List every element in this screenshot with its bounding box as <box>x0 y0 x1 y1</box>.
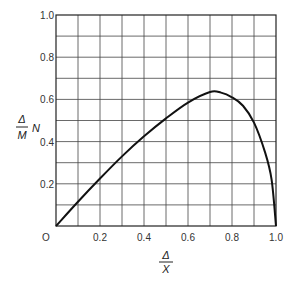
y-tick-label: 0.8 <box>40 52 54 63</box>
y-axis-label-denominator: M <box>17 129 27 141</box>
x-tick-labels: O0.20.40.60.81.0 <box>42 232 283 243</box>
x-tick-label: 0.8 <box>225 232 239 243</box>
y-axis-label-numerator: Δ <box>17 113 25 125</box>
y-tick-label: 0.2 <box>40 179 54 190</box>
x-axis-label: Δ X <box>159 249 173 275</box>
x-tick-label: 0.2 <box>93 232 107 243</box>
x-tick-label: 0.4 <box>137 232 151 243</box>
y-tick-label: 0.4 <box>40 137 54 148</box>
y-axis-label-suffix: N <box>32 122 40 134</box>
x-axis-label-denominator: X <box>161 263 170 275</box>
x-tick-label: 0.6 <box>181 232 195 243</box>
y-tick-label: 0.6 <box>40 94 54 105</box>
y-axis-label: Δ M N <box>16 113 40 141</box>
y-tick-label: 1.0 <box>40 10 54 21</box>
y-tick-labels: 0.20.40.60.81.0 <box>40 10 54 190</box>
x-tick-label: O <box>42 232 50 243</box>
x-tick-label: 1.0 <box>269 232 283 243</box>
x-axis-label-numerator: Δ <box>161 249 169 261</box>
chart: O0.20.40.60.81.0 0.20.40.60.81.0 Δ M N Δ… <box>0 0 304 284</box>
grid <box>56 15 276 226</box>
